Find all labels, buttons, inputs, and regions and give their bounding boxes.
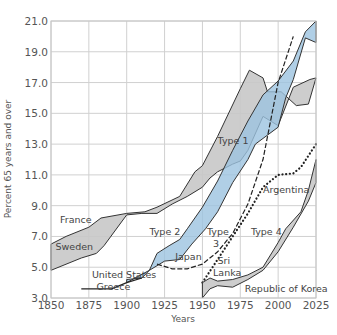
annotation-republic-of-korea: Republic of Korea (245, 283, 328, 294)
annotation-type-2: Type 2 (148, 226, 180, 237)
series-annotations: FranceSwedenUnited StatesGreeceType 1Typ… (56, 135, 328, 294)
y-tick-label: 7.0 (31, 230, 48, 242)
y-axis-ticks: 3.05.07.09.011.013.015.017.019.021.0 (25, 15, 48, 304)
x-tick-label: 1875 (75, 299, 102, 311)
x-axis-ticks: 18501875190019251950197520002025 (38, 299, 330, 311)
y-axis-title: Percent 65 years and over (3, 99, 13, 218)
annotation-sri: Sri (218, 255, 231, 266)
x-tick-label: 1975 (227, 299, 254, 311)
x-tick-label: 2000 (265, 299, 292, 311)
annotation-lanka: Lanka (213, 267, 241, 278)
annotation-type-1: Type 1 (217, 135, 249, 146)
annotation-sweden: Sweden (56, 241, 94, 252)
y-tick-label: 21.0 (25, 15, 48, 27)
y-tick-label: 17.0 (25, 77, 48, 89)
y-tick-label: 19.0 (25, 46, 48, 58)
annotation-greece: Greece (96, 281, 130, 292)
annotation-japan: Japan (174, 251, 202, 262)
y-tick-label: 5.0 (31, 261, 48, 273)
x-tick-label: 1900 (113, 299, 140, 311)
y-tick-label: 9.0 (31, 200, 48, 212)
annotation-type-4: Type 4 (250, 226, 282, 237)
x-tick-label: 1850 (38, 299, 65, 311)
annotation-argentina: Argentina (263, 184, 309, 195)
x-tick-label: 1925 (151, 299, 178, 311)
x-axis-title: Years (170, 314, 195, 324)
annotation-united-states: United States (92, 269, 156, 280)
annotation-type: Type (206, 226, 229, 237)
y-tick-label: 13.0 (25, 138, 48, 150)
y-tick-label: 11.0 (25, 169, 48, 181)
aging-population-chart: 3.05.07.09.011.013.015.017.019.021.0 185… (0, 0, 337, 335)
x-tick-label: 1950 (189, 299, 216, 311)
annotation-france: France (60, 214, 92, 225)
x-tick-label: 2025 (303, 299, 330, 311)
annotation-3: 3 (213, 238, 219, 249)
y-tick-label: 15.0 (25, 107, 48, 119)
